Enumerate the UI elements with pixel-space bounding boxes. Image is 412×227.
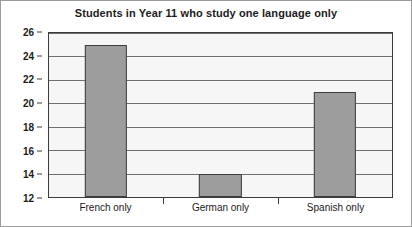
- y-tick-label-20: 20: [23, 98, 34, 109]
- bars-layer: [49, 33, 392, 197]
- x-tick-label-german-only: German only: [192, 202, 249, 213]
- y-tick-label-14: 14: [23, 169, 34, 180]
- y-tick-label-26: 26: [23, 27, 34, 38]
- bar-slot: [163, 33, 277, 197]
- y-axis: 1214161820222426: [0, 32, 42, 198]
- y-tick-mark-20: [37, 103, 42, 104]
- y-tick-label-12: 12: [23, 193, 34, 204]
- y-tick-label-18: 18: [23, 121, 34, 132]
- bar-german-only: [199, 174, 241, 197]
- x-axis: French onlyGerman onlySpanish only: [48, 202, 393, 220]
- y-tick-mark-16: [37, 150, 42, 151]
- y-tick-mark-18: [37, 126, 42, 127]
- x-tick-label-french-only: French only: [79, 202, 131, 213]
- y-tick-label-16: 16: [23, 145, 34, 156]
- bar-chart-figure: Students in Year 11 who study one langua…: [0, 0, 412, 227]
- chart-title: Students in Year 11 who study one langua…: [0, 7, 412, 19]
- y-tick-mark-24: [37, 55, 42, 56]
- bar-slot: [278, 33, 392, 197]
- plot-area: [48, 32, 393, 198]
- x-tick-label-spanish-only: Spanish only: [307, 202, 364, 213]
- y-tick-mark-14: [37, 174, 42, 175]
- y-tick-label-24: 24: [23, 50, 34, 61]
- y-tick-mark-12: [37, 198, 42, 199]
- bar-slot: [49, 33, 163, 197]
- bar-french-only: [85, 45, 127, 197]
- y-tick-mark-22: [37, 79, 42, 80]
- bar-spanish-only: [314, 92, 356, 197]
- y-tick-mark-26: [37, 32, 42, 33]
- y-tick-label-22: 22: [23, 74, 34, 85]
